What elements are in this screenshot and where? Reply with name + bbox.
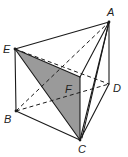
label-a: A [106,6,114,18]
label-e: E [3,43,11,55]
label-c: C [78,143,86,155]
label-b: B [4,113,11,125]
edge-e-a [15,22,109,49]
label-d: D [113,82,121,94]
vertex-a [108,21,111,24]
edge-a-c-2 [82,22,109,138]
edge-c-d [80,84,109,140]
vertex-e [14,48,17,51]
geometry-diagram: A E F D B C [0,0,128,157]
edge-e-b [15,49,16,111]
vertex-c [79,139,82,142]
vertex-b [15,110,18,113]
edge-a-f [80,22,109,77]
